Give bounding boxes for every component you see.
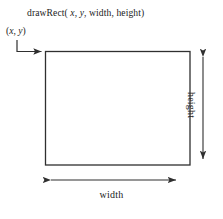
origin-coordinate-label: (x, y) [6, 26, 26, 36]
signature-arg-width: width [89, 7, 111, 18]
signature-caption: drawRect( x, y, width, height) [27, 8, 144, 18]
width-label: width [0, 190, 223, 200]
signature-prefix: drawRect( [27, 7, 70, 18]
origin-pointer-arrow [17, 40, 42, 52]
height-label: height [186, 92, 196, 118]
signature-arg-height: height [116, 7, 141, 18]
main-rectangle [46, 52, 191, 166]
signature-suffix: ) [141, 7, 144, 18]
drawrect-diagram: drawRect( x, y, width, height) (x, y) wi… [0, 0, 223, 219]
origin-close-paren: ) [23, 25, 26, 36]
